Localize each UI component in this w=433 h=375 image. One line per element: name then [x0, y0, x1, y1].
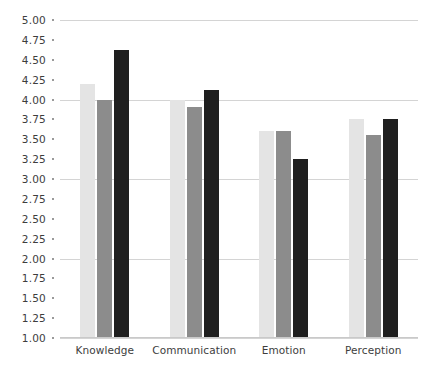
- y-axis: 5.004.754.504.254.003.753.503.253.002.75…: [0, 20, 60, 338]
- y-axis-tick-label: 4.75: [22, 34, 46, 46]
- y-axis-tick-label: 2.00: [22, 253, 46, 265]
- y-axis-tick-mark: [52, 19, 54, 21]
- bar[interactable]: [80, 84, 95, 338]
- y-axis-tick-mark: [52, 138, 54, 140]
- y-axis-tick-label: 3.75: [22, 113, 46, 125]
- y-axis-tick-label: 2.75: [22, 193, 46, 205]
- y-axis-tick-label: 1.75: [22, 272, 46, 284]
- y-axis-tick-mark: [52, 39, 54, 41]
- y-axis-tick-mark: [52, 198, 54, 200]
- y-axis-tick-mark: [52, 99, 54, 101]
- y-axis-tick-mark: [52, 297, 54, 299]
- y-axis-tick-mark: [52, 79, 54, 81]
- bar[interactable]: [170, 100, 185, 339]
- x-axis-tick-label: Emotion: [239, 344, 329, 356]
- y-axis-tick-label: 1.25: [22, 312, 46, 324]
- bar[interactable]: [366, 135, 381, 338]
- y-axis-tick-label: 5.00: [22, 14, 46, 26]
- y-axis-tick-label: 3.00: [22, 173, 46, 185]
- x-axis-tick-label: Knowledge: [60, 344, 150, 356]
- bar[interactable]: [276, 131, 291, 338]
- y-axis-tick-mark: [52, 337, 54, 339]
- plot-area: [60, 20, 418, 338]
- y-axis-tick-mark: [52, 59, 54, 61]
- bar[interactable]: [349, 119, 364, 338]
- x-axis-tick-label: Communication: [150, 344, 240, 356]
- y-axis-tick-label: 1.50: [22, 292, 46, 304]
- bar-group: [60, 20, 150, 338]
- y-axis-tick-mark: [52, 238, 54, 240]
- bar[interactable]: [97, 100, 112, 339]
- y-axis-tick-label: 1.00: [22, 332, 46, 344]
- x-axis-labels: KnowledgeCommunicationEmotionPerception: [60, 344, 418, 356]
- bar-groups: [60, 20, 418, 338]
- y-axis-tick-label: 2.25: [22, 233, 46, 245]
- bar-group: [239, 20, 329, 338]
- bar[interactable]: [204, 90, 219, 338]
- x-axis-tick-label: Perception: [329, 344, 419, 356]
- y-axis-tick-mark: [52, 118, 54, 120]
- y-axis-tick-mark: [52, 158, 54, 160]
- y-axis-tick-label: 3.25: [22, 153, 46, 165]
- bar[interactable]: [114, 50, 129, 338]
- y-axis-tick-mark: [52, 218, 54, 220]
- gridline: [60, 338, 418, 339]
- y-axis-tick-label: 4.00: [22, 94, 46, 106]
- y-axis-tick-label: 4.25: [22, 74, 46, 86]
- bar-group: [150, 20, 240, 338]
- bar[interactable]: [187, 107, 202, 338]
- y-axis-tick-mark: [52, 277, 54, 279]
- y-axis-tick-label: 2.50: [22, 213, 46, 225]
- y-axis-tick-mark: [52, 258, 54, 260]
- bar[interactable]: [293, 159, 308, 338]
- y-axis-tick-label: 4.50: [22, 54, 46, 66]
- y-axis-tick-label: 3.50: [22, 133, 46, 145]
- y-axis-tick-mark: [52, 178, 54, 180]
- y-axis-tick-mark: [52, 317, 54, 319]
- x-axis-baseline: [60, 337, 418, 338]
- bar[interactable]: [259, 131, 274, 338]
- bar-group: [329, 20, 419, 338]
- bar[interactable]: [383, 119, 398, 338]
- bar-chart: 5.004.754.504.254.003.753.503.253.002.75…: [0, 0, 433, 375]
